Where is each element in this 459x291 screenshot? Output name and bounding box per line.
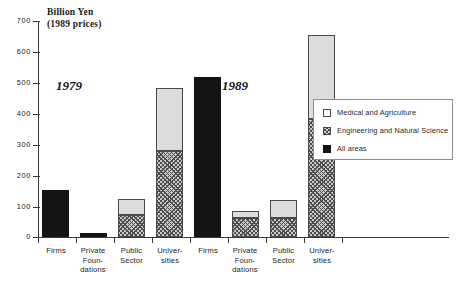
x-axis-category-label-universities: Univer- sities bbox=[303, 246, 341, 265]
annotation-year-1989: 1989 bbox=[222, 78, 248, 94]
label-line: dations bbox=[226, 265, 264, 275]
legend-item-all-areas: All areas bbox=[323, 143, 367, 154]
label-line: Foun- bbox=[226, 256, 264, 266]
axis-title-line1: Billion Yen bbox=[47, 7, 102, 19]
label-line: Sector bbox=[113, 256, 150, 266]
x-axis-tick bbox=[114, 237, 115, 243]
x-axis-tick bbox=[152, 237, 153, 243]
label-line: Sector bbox=[265, 256, 302, 266]
y-axis-label-600: 600 bbox=[9, 47, 31, 56]
x-axis-tick bbox=[304, 237, 305, 243]
x-axis-line bbox=[38, 237, 449, 238]
x-axis-category-label-public-sector: Public Sector bbox=[113, 246, 150, 265]
y-axis-tick-600 bbox=[33, 52, 40, 53]
label-line: Univer- bbox=[303, 246, 341, 256]
y-axis-tick-500 bbox=[33, 83, 40, 84]
label-line: Univer- bbox=[151, 246, 189, 256]
bar-segment-all-areas bbox=[42, 190, 69, 237]
legend-swatch-hatch-icon bbox=[323, 127, 331, 135]
bar-segment-engineering-natural-science bbox=[118, 215, 145, 237]
label-line: Private bbox=[226, 246, 264, 256]
bar-segment-medical-agriculture bbox=[270, 200, 297, 218]
x-axis-category-label-private-foundations: Private Foun- dations bbox=[226, 246, 264, 275]
x-axis-category-label-private-foundations: Private Foun- dations bbox=[74, 246, 112, 275]
label-line: sities bbox=[151, 256, 189, 266]
y-axis-tick-300 bbox=[33, 145, 40, 146]
label-line: Firms bbox=[38, 246, 74, 256]
bar-segment-medical-agriculture bbox=[118, 199, 145, 215]
axis-title-line2: (1989 prices) bbox=[47, 19, 102, 31]
legend-item-medical-agriculture: Medical and Agriculture bbox=[323, 107, 416, 118]
label-line: sities bbox=[303, 256, 341, 266]
legend-swatch-light-icon bbox=[323, 109, 331, 117]
y-axis-tick-200 bbox=[33, 176, 40, 177]
bar-1979-firms bbox=[42, 190, 69, 237]
label-line: Private bbox=[74, 246, 112, 256]
x-axis-tick bbox=[38, 237, 39, 243]
bar-segment-medical-agriculture bbox=[156, 88, 183, 151]
bar-1989-public-sector bbox=[270, 200, 297, 237]
chart-axis-title: Billion Yen (1989 prices) bbox=[47, 7, 102, 30]
label-line: Foun- bbox=[74, 256, 112, 266]
y-axis-tick-100 bbox=[33, 207, 40, 208]
y-axis-label-500: 500 bbox=[9, 78, 31, 87]
y-axis-label-0: 0 bbox=[9, 232, 31, 241]
bar-segment-all-areas bbox=[80, 233, 107, 237]
x-axis-category-label-firms: Firms bbox=[190, 246, 226, 256]
annotation-year-1979: 1979 bbox=[56, 78, 82, 94]
label-line: Firms bbox=[190, 246, 226, 256]
bar-1979-public-sector bbox=[118, 199, 145, 237]
x-axis-category-label-universities: Univer- sities bbox=[151, 246, 189, 265]
y-axis-tick-400 bbox=[33, 114, 40, 115]
y-axis-label-100: 100 bbox=[9, 202, 31, 211]
x-axis-tick bbox=[190, 237, 191, 243]
x-axis-category-label-public-sector: Public Sector bbox=[265, 246, 302, 265]
y-axis-tick-700 bbox=[33, 21, 40, 22]
legend-label: Medical and Agriculture bbox=[337, 108, 416, 117]
x-axis-tick bbox=[228, 237, 229, 243]
bar-1979-private-foundations bbox=[80, 233, 107, 237]
legend-label: Engineering and Natural Science bbox=[337, 126, 448, 135]
bar-1989-firms bbox=[194, 77, 221, 237]
label-line: Public bbox=[113, 246, 150, 256]
legend-swatch-solid-icon bbox=[323, 145, 331, 153]
bar-segment-engineering-natural-science bbox=[156, 151, 183, 237]
x-axis-tick bbox=[342, 237, 343, 243]
legend-label: All areas bbox=[337, 144, 367, 153]
y-axis-label-700: 700 bbox=[9, 16, 31, 25]
chart-container: Billion Yen (1989 prices) 700 600 500 40… bbox=[0, 0, 459, 291]
legend-item-engineering-natural-science: Engineering and Natural Science bbox=[323, 125, 448, 136]
y-axis-label-200: 200 bbox=[9, 171, 31, 180]
x-axis-tick bbox=[266, 237, 267, 243]
y-axis-line bbox=[38, 21, 39, 238]
y-axis-label-300: 300 bbox=[9, 140, 31, 149]
label-line: dations bbox=[74, 265, 112, 275]
y-axis-label-400: 400 bbox=[9, 109, 31, 118]
x-axis-category-label-firms: Firms bbox=[38, 246, 74, 256]
chart-legend: Medical and Agriculture Engineering and … bbox=[313, 99, 453, 160]
bar-1979-universities bbox=[156, 88, 183, 237]
bar-segment-engineering-natural-science bbox=[232, 218, 259, 237]
bar-segment-medical-agriculture bbox=[232, 211, 259, 218]
label-line: Public bbox=[265, 246, 302, 256]
bar-segment-all-areas bbox=[194, 77, 221, 237]
x-axis-tick bbox=[76, 237, 77, 243]
bar-1989-private-foundations bbox=[232, 211, 259, 237]
bar-segment-engineering-natural-science bbox=[270, 218, 297, 237]
